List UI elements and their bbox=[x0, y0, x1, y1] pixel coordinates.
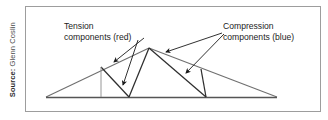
top-right-chord bbox=[149, 48, 277, 97]
source-credit: Source: Glenn Coslin bbox=[0, 0, 24, 120]
truss-diagram: Tension components (red) Compression com… bbox=[26, 7, 322, 113]
top-left-chord bbox=[46, 48, 149, 97]
web-member-group bbox=[101, 48, 206, 97]
compression-leader-right bbox=[186, 34, 224, 73]
source-credit-text: Source: Glenn Coslin bbox=[8, 23, 16, 98]
web-diagonal-right bbox=[149, 48, 206, 97]
compression-label-line2: components (blue) bbox=[223, 32, 294, 42]
tension-label-line1: Tension bbox=[64, 21, 94, 31]
compression-label-line1: Compression bbox=[223, 21, 274, 31]
source-label: Source: bbox=[7, 69, 16, 98]
compression-leader-left bbox=[166, 33, 222, 52]
tension-leader-lower bbox=[123, 40, 138, 85]
source-name: Glenn Coslin bbox=[7, 23, 16, 69]
tension-label-line2: components (red) bbox=[64, 32, 131, 42]
illustration-panel: Tension components (red) Compression com… bbox=[25, 6, 321, 112]
truss-figure: Source: Glenn Coslin bbox=[0, 0, 328, 120]
outer-chord-group bbox=[46, 48, 277, 97]
web-diagonal-left bbox=[129, 48, 149, 97]
web-vertical-left bbox=[101, 67, 129, 97]
